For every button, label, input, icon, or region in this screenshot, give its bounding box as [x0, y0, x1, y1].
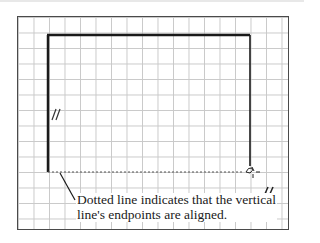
- parallel-symbol-left-icon: [52, 109, 60, 120]
- callout-text: Dotted line indicates that the vertical …: [76, 193, 277, 222]
- pen-cursor-icon: [246, 167, 260, 178]
- callout-line-1: Dotted line indicates that the vertical: [77, 193, 276, 208]
- callout-line-2: line's endpoints are aligned.: [77, 208, 227, 223]
- callout-leader-line: [60, 173, 75, 200]
